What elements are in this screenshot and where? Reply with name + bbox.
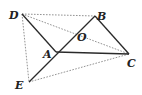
segment-DE <box>22 14 29 82</box>
segment-DC <box>22 14 129 54</box>
geometry-diagram: D B O A C E <box>0 0 142 95</box>
label-A: A <box>42 48 52 61</box>
point-labels: D B O A C E <box>8 9 136 92</box>
segment-EB <box>29 16 95 82</box>
segment-AC <box>56 52 129 54</box>
label-O: O <box>77 31 87 44</box>
segment-DA <box>22 14 56 52</box>
dashed-lines <box>22 14 129 82</box>
label-C: C <box>127 57 136 70</box>
label-D: D <box>8 9 19 22</box>
label-E: E <box>14 79 24 92</box>
label-B: B <box>96 10 106 23</box>
segment-DB <box>22 14 95 16</box>
